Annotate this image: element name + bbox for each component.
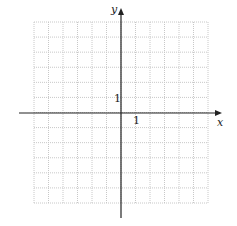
grid-graphic xyxy=(0,0,237,226)
x-unit-label: 1 xyxy=(133,115,140,126)
coordinate-plane: y x 1 1 xyxy=(0,0,237,226)
y-unit-label: 1 xyxy=(114,93,121,104)
y-axis-label: y xyxy=(111,4,117,15)
x-axis-label: x xyxy=(217,117,223,128)
y-arrow-icon xyxy=(118,8,124,15)
